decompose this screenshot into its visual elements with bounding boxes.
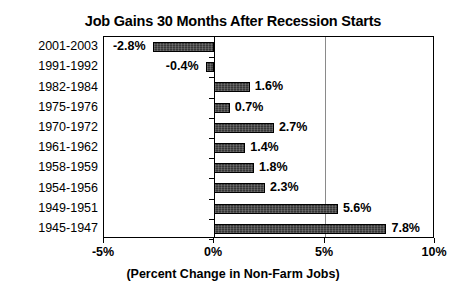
bar <box>214 224 386 234</box>
bar <box>214 143 245 153</box>
chart-title: Job Gains 30 Months After Recession Star… <box>0 13 466 29</box>
x-tick <box>434 238 435 243</box>
bar <box>153 42 215 52</box>
bar-row: 2.3% <box>104 178 433 198</box>
bar <box>214 123 274 133</box>
bar-value-label: 7.8% <box>391 220 420 237</box>
bar <box>214 82 249 92</box>
category-label: 1949-1951 <box>3 198 98 218</box>
bar-value-label: 1.8% <box>259 159 288 176</box>
bar-row: 5.6% <box>104 199 433 219</box>
bar <box>214 103 229 113</box>
x-axis-caption: (Percent Change in Non-Farm Jobs) <box>0 267 466 281</box>
bar-row: 0.7% <box>104 98 433 118</box>
bar-value-label: 2.7% <box>279 119 308 136</box>
bar-value-label: -2.8% <box>113 38 146 55</box>
bar-row: 2.7% <box>104 118 433 138</box>
bar-row: -0.4% <box>104 57 433 77</box>
bar-chart: Job Gains 30 Months After Recession Star… <box>0 0 466 295</box>
bar-value-label: 1.6% <box>255 78 284 95</box>
bar-row: 1.6% <box>104 77 433 97</box>
bar <box>206 62 215 72</box>
x-tick <box>213 238 214 243</box>
bar-row: -2.8% <box>104 37 433 57</box>
category-label: 1961-1962 <box>3 137 98 157</box>
category-label: 1958-1959 <box>3 157 98 177</box>
category-label: 1954-1956 <box>3 178 98 198</box>
x-tick-label: 0% <box>204 245 222 259</box>
bar <box>214 163 254 173</box>
bar-row: 7.8% <box>104 219 433 239</box>
x-tick <box>324 238 325 243</box>
bar-value-label: 5.6% <box>343 200 372 217</box>
x-tick <box>103 238 104 243</box>
bar-value-label: 0.7% <box>235 99 264 116</box>
category-label: 1945-1947 <box>3 218 98 238</box>
category-label: 1970-1972 <box>3 117 98 137</box>
x-tick-label: 10% <box>421 245 446 259</box>
category-label: 1991-1992 <box>3 56 98 76</box>
bar-row: 1.4% <box>104 138 433 158</box>
bar-row: 1.8% <box>104 158 433 178</box>
bar-value-label: 1.4% <box>250 139 279 156</box>
x-tick-label: -5% <box>92 245 114 259</box>
category-label: 1975-1976 <box>3 97 98 117</box>
plot-area: -2.8%-0.4%1.6%0.7%2.7%1.4%1.8%2.3%5.6%7.… <box>103 36 434 238</box>
x-tick-label: 5% <box>315 245 333 259</box>
bar-value-label: -0.4% <box>166 58 199 75</box>
category-label: 2001-2003 <box>3 36 98 56</box>
category-axis-labels: 2001-20031991-19921982-19841975-19761970… <box>0 36 98 238</box>
category-label: 1982-1984 <box>3 77 98 97</box>
bar <box>214 204 338 214</box>
bar-value-label: 2.3% <box>270 179 299 196</box>
bar <box>214 183 265 193</box>
